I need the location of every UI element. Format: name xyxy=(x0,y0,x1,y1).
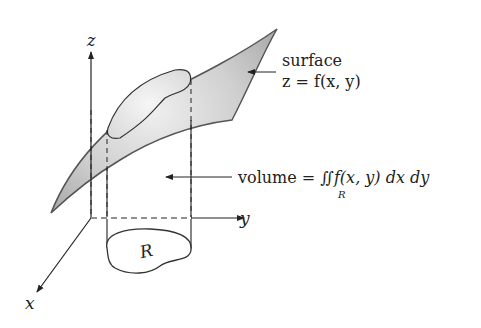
integral-region-subscript: R xyxy=(337,189,346,200)
integrand: f(x, y) dx dy xyxy=(333,168,430,187)
x-axis xyxy=(37,218,91,292)
z-axis-label: z xyxy=(86,31,96,50)
volume-prefix: volume = xyxy=(237,168,320,187)
volume-label: volume = ∬f(x, y) dx dy xyxy=(237,168,430,187)
double-integral-sign: ∬ xyxy=(320,168,334,187)
surface-equation: z = f(x, y) xyxy=(282,72,361,91)
x-axis-label: x xyxy=(25,293,35,313)
double-integral-diagram: R z y x surface z = f(x, y) volume = ∬f(… xyxy=(0,0,481,328)
surface-label: surface xyxy=(282,51,342,70)
y-axis-label: y xyxy=(239,208,250,228)
